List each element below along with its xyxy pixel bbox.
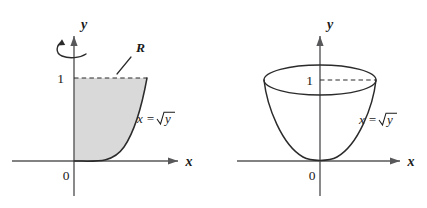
x-axis-arrowhead-right: [390, 157, 400, 164]
x-axis-label-right: x: [407, 154, 415, 169]
y-axis-right: [316, 36, 323, 196]
equation-lhs: x: [136, 111, 143, 126]
curve-equation-left: x = y: [136, 111, 175, 126]
equation-radicand-right: y: [385, 112, 393, 127]
figure-container: y x 1 0 R x = y: [0, 0, 427, 208]
equation-equals-right: =: [368, 112, 377, 127]
equation-equals: =: [146, 111, 155, 126]
curve-equation-right: x = y: [358, 112, 397, 127]
origin-label: 0: [63, 168, 70, 183]
y-axis-arrowhead: [70, 36, 77, 46]
y-tick-label-1-right: 1: [306, 73, 313, 88]
revolution-arrowhead: [58, 39, 65, 45]
equation-lhs-right: x: [358, 112, 365, 127]
x-axis-label: x: [185, 154, 193, 169]
y-axis-arrowhead-right: [316, 36, 323, 46]
solid-of-revolution-figure: y x 1 0 R x = y: [0, 0, 427, 208]
y-axis-label: y: [79, 17, 88, 32]
revolution-arrow: [57, 39, 86, 58]
y-axis-label-right: y: [325, 17, 334, 32]
origin-label-right: 0: [309, 168, 316, 183]
y-tick-label-1: 1: [57, 71, 64, 86]
region-label-leader-line: [117, 57, 131, 74]
equation-radicand: y: [163, 111, 171, 126]
region-panel: y x 1 0 R x = y: [12, 17, 193, 196]
x-axis-arrowhead: [168, 157, 178, 164]
region-label-R: R: [135, 40, 145, 55]
solid-panel: y x 1 0 x = y: [237, 17, 415, 196]
